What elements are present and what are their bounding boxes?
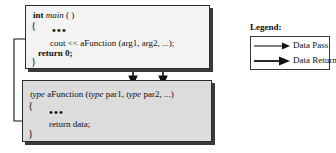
- legend-title: Legend:: [250, 22, 282, 32]
- thin-arrow-right-icon: [253, 38, 291, 54]
- main-open-brace: {: [31, 20, 36, 30]
- legend-label-data-return: Data Return: [293, 55, 336, 65]
- thick-arrow-right-icon: [253, 53, 291, 69]
- main-signature-line: int main ( ): [33, 10, 74, 20]
- afunction-param-comma-2: ,: [160, 89, 162, 99]
- diagram-canvas: int main ( ) { ••• cout << aFunction (ar…: [0, 0, 336, 153]
- legend-box: Data Pass Data Return: [250, 36, 330, 70]
- legend-item-data-return: Data Return: [253, 53, 329, 69]
- main-return-statement: return 0;: [38, 48, 73, 58]
- afunction-param2-name: par2: [144, 89, 160, 99]
- afunction-signature-line: type aFunction (type par1, type par2, ..…: [30, 89, 174, 99]
- afunction-definition-block: type aFunction (type par1, type par2, ..…: [22, 80, 212, 142]
- main-function-block: int main ( ) { ••• cout << aFunction (ar…: [25, 5, 210, 69]
- main-close-brace: }: [31, 56, 36, 66]
- main-call-statement: cout << aFunction (arg1, arg2, ...);: [50, 38, 174, 48]
- afunction-close-paren: ): [171, 89, 174, 99]
- main-signature-params: ( ): [66, 10, 74, 20]
- afunction-return-type: type: [30, 89, 45, 99]
- afunction-param1-name: par1: [106, 89, 122, 99]
- afunction-param-ellipsis: ...: [164, 89, 171, 99]
- afunction-return-statement: return data;: [49, 119, 90, 129]
- afunction-open-brace: {: [28, 100, 33, 110]
- afunction-close-brace: }: [28, 128, 33, 138]
- main-function-name: main: [46, 10, 64, 20]
- afunction-param-comma: ,: [122, 89, 124, 99]
- afunction-param2-type: type: [126, 89, 141, 99]
- afunction-param1-type: type: [89, 89, 104, 99]
- main-body-ellipsis: •••: [52, 26, 67, 34]
- afunction-name: aFunction: [47, 89, 83, 99]
- legend-item-data-pass: Data Pass: [253, 38, 329, 54]
- legend-label-data-pass: Data Pass: [293, 40, 328, 50]
- afunction-body-ellipsis: •••: [49, 108, 64, 116]
